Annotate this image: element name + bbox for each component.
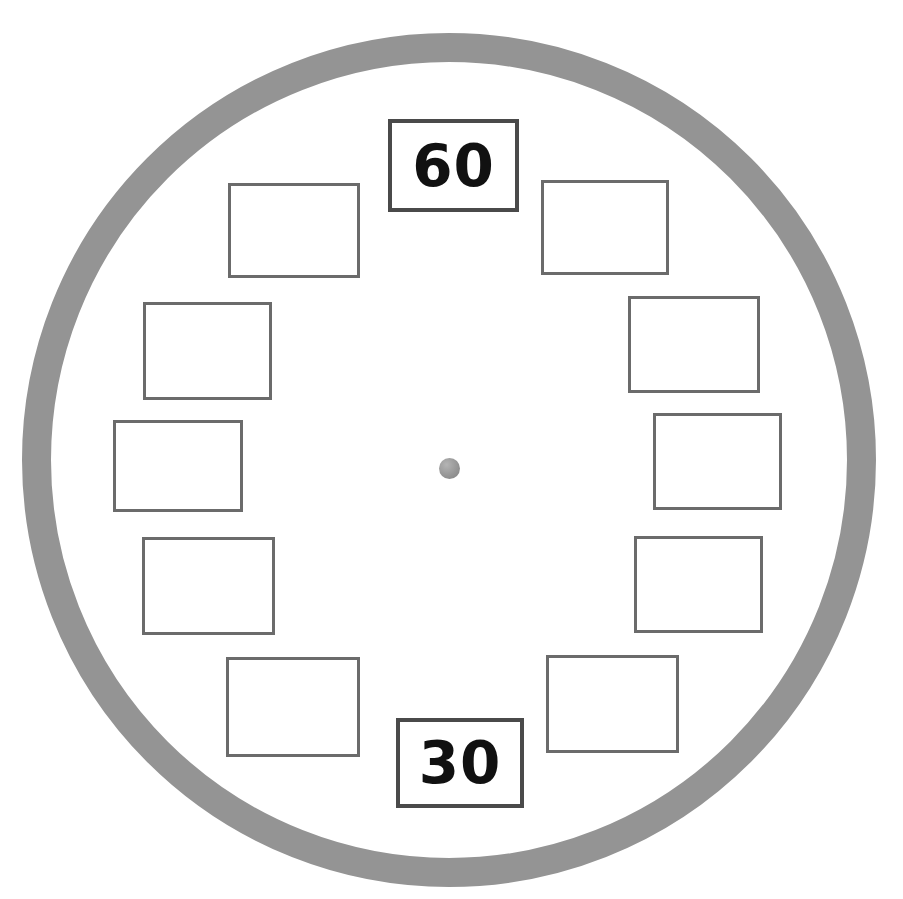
hour-box-3-oclock[interactable] bbox=[653, 413, 782, 510]
hour-box-8-oclock[interactable] bbox=[142, 537, 275, 635]
clock-center-pivot-icon bbox=[439, 458, 460, 479]
hour-box-2-oclock[interactable] bbox=[628, 296, 760, 393]
hour-box-6-oclock[interactable]: 30 bbox=[396, 718, 524, 808]
hour-box-1-oclock[interactable] bbox=[541, 180, 669, 275]
hour-box-4-oclock[interactable] bbox=[634, 536, 763, 633]
hour-box-9-oclock[interactable] bbox=[113, 420, 243, 512]
hour-box-12-oclock[interactable]: 60 bbox=[388, 119, 519, 212]
hour-box-10-oclock[interactable] bbox=[143, 302, 272, 400]
hour-box-5-oclock[interactable] bbox=[546, 655, 679, 753]
hour-box-label: 30 bbox=[419, 734, 502, 792]
clock-worksheet-canvas: 6030 bbox=[0, 0, 903, 899]
hour-box-label: 60 bbox=[412, 137, 495, 195]
hour-box-7-oclock[interactable] bbox=[226, 657, 360, 757]
hour-box-11-oclock[interactable] bbox=[228, 183, 360, 278]
